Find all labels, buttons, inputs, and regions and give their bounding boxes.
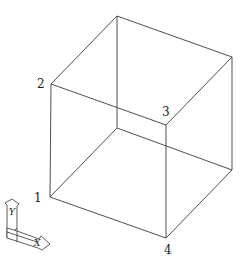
vertex-labels: 1 2 3 4 <box>34 77 172 257</box>
edge-2-topback <box>51 16 117 84</box>
edge-topright-3 <box>166 57 232 125</box>
edge-4-1 <box>50 197 166 238</box>
edge-backinner-bottomright <box>117 128 232 170</box>
ucs-x-label: X <box>33 238 41 248</box>
ucs-y-label: Y <box>9 207 16 217</box>
edge-1-2 <box>50 84 51 197</box>
cube-diagram: 1 2 3 4 Y X <box>0 0 250 264</box>
vertex-label-1: 1 <box>34 191 42 205</box>
ucs-icon: Y X <box>5 199 50 250</box>
vertex-label-2: 2 <box>37 77 45 91</box>
edge-2-3 <box>51 84 166 125</box>
cube-wireframe <box>50 16 232 238</box>
edge-backinner-1 <box>50 128 117 197</box>
vertex-label-3: 3 <box>162 105 170 119</box>
edge-topback-topright <box>117 16 232 57</box>
vertex-label-4: 4 <box>164 243 172 257</box>
edge-bottomright-4 <box>166 170 232 238</box>
